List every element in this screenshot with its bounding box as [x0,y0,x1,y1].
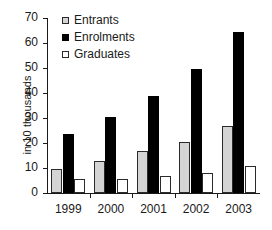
y-tick-label: 20 [25,135,38,149]
y-tick: 0 [43,193,48,194]
y-axis-line [47,18,48,193]
y-tick-label: 40 [25,85,38,99]
bar [51,169,62,193]
y-tick-label: 30 [25,110,38,124]
x-axis-line [47,193,260,194]
x-tick [132,193,133,198]
y-tick-label: 60 [25,35,38,49]
x-tick [90,193,91,198]
bar-chart-figure: in 10 thousands 010203040506070 19992000… [0,0,272,230]
y-tick: 20 [43,143,48,144]
bar [233,32,244,193]
x-tick-label: 1999 [55,202,82,216]
bar [63,134,74,194]
x-tick-label: 2000 [98,202,125,216]
bar [202,173,213,193]
bar [222,126,233,193]
y-tick: 30 [43,118,48,119]
legend: EntrantsEnrolmentsGraduates [62,12,135,63]
bar [179,142,190,193]
y-tick-label: 0 [31,185,38,199]
legend-item[interactable]: Entrants [62,12,135,28]
bar [245,166,256,194]
legend-item[interactable]: Graduates [62,46,135,62]
bar [117,179,128,194]
bar [94,161,105,194]
x-tick [217,193,218,198]
x-tick-label: 2001 [140,202,167,216]
y-tick-label: 10 [25,160,38,174]
legend-item[interactable]: Enrolments [62,29,135,45]
y-tick: 60 [43,43,48,44]
legend-swatch-icon [62,51,69,58]
bar [74,179,85,193]
legend-label: Enrolments [74,30,135,44]
bar [137,151,148,193]
y-tick: 50 [43,68,48,69]
legend-swatch-icon [62,17,69,24]
x-tick-label: 2003 [225,202,252,216]
legend-label: Entrants [74,13,119,27]
bar [160,176,171,193]
y-tick: 40 [43,93,48,94]
bar [105,117,116,193]
y-tick-label: 50 [25,60,38,74]
y-tick: 70 [43,18,48,19]
legend-swatch-icon [62,34,69,41]
legend-label: Graduates [74,47,130,61]
x-tick [175,193,176,198]
bar [148,96,159,194]
y-tick: 10 [43,168,48,169]
bar [191,69,202,194]
x-tick-label: 2002 [183,202,210,216]
y-tick-label: 70 [25,10,38,24]
